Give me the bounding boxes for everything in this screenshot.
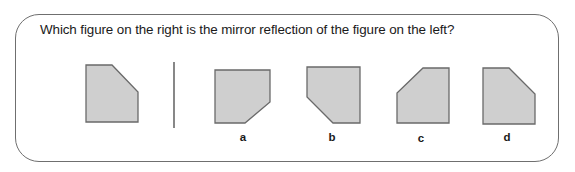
option-c-label[interactable]: c <box>411 132 431 144</box>
option-d-figure[interactable] <box>483 68 535 124</box>
option-a-figure[interactable] <box>215 70 270 123</box>
option-b-label[interactable]: b <box>322 131 342 143</box>
figures-area <box>0 0 575 172</box>
option-c-figure[interactable] <box>397 68 449 123</box>
option-d-label[interactable]: d <box>497 131 517 143</box>
reference-figure <box>86 65 138 122</box>
option-b-figure[interactable] <box>307 67 360 123</box>
option-a-label[interactable]: a <box>233 131 253 143</box>
